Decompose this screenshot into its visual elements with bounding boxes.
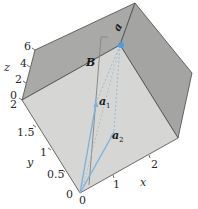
z-tick-4: 4 xyxy=(20,57,27,70)
y-tick-1: 1 xyxy=(40,146,47,159)
box-vector-diagram: 0 2 4 6 z 2 1.5 1 0.5 0 y 0 1 2 x B a 1 … xyxy=(0,0,198,209)
a2-subscript: 2 xyxy=(119,136,123,144)
z-tick-6: 6 xyxy=(24,40,31,53)
y-tick-1-5: 1.5 xyxy=(17,126,35,139)
y-tick-0-5: 0.5 xyxy=(47,168,65,181)
x-tick-1: 1 xyxy=(113,178,120,191)
x-tick-0: 0 xyxy=(79,194,86,207)
z-tick-2: 2 xyxy=(15,73,22,86)
y-tick-2: 2 xyxy=(10,98,17,111)
y-tick-0: 0 xyxy=(66,188,73,201)
top-point xyxy=(118,42,124,48)
b-vector-label: B xyxy=(85,56,95,69)
x-axis-label: x xyxy=(140,176,147,189)
y-axis-label: y xyxy=(26,156,34,169)
x-tick-2: 2 xyxy=(151,158,158,171)
a1-subscript: 1 xyxy=(106,102,110,110)
z-axis-label: z xyxy=(3,61,10,74)
